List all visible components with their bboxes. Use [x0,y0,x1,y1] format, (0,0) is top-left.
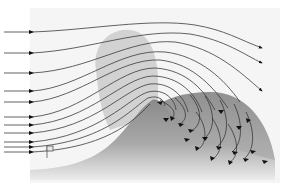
airflow-svg [0,0,294,191]
airflow-diagram [0,0,294,191]
